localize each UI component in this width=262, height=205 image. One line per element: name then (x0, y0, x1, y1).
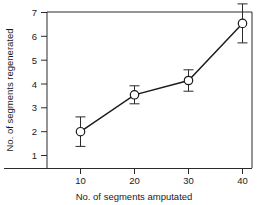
chart-page: 7 6 5 4 3 2 1 10 20 30 40 (0, 0, 262, 205)
data-point-2 (130, 91, 138, 99)
x-tick-label-10: 10 (75, 175, 86, 186)
y-axis-title: No. of segments regenerated (4, 28, 15, 151)
y-tick-label-4: 4 (32, 79, 37, 90)
y-tick-label-3: 3 (32, 102, 37, 113)
plot-frame (47, 12, 252, 168)
x-tick-label-20: 20 (129, 175, 140, 186)
y-tick-label-5: 5 (32, 55, 37, 66)
data-point-1 (76, 128, 84, 136)
error-bars (76, 4, 248, 147)
y-tick-label-1: 1 (32, 150, 37, 161)
scatter-line-chart: 7 6 5 4 3 2 1 10 20 30 40 (0, 0, 262, 205)
x-tick-label-40: 40 (237, 175, 248, 186)
y-tick-label-7: 7 (32, 7, 37, 18)
data-point-3 (184, 76, 192, 84)
x-axis-title: No. of segments amputated (76, 191, 193, 202)
y-axis-ticks (41, 13, 47, 156)
data-point-markers (76, 19, 246, 136)
x-tick-label-30: 30 (183, 175, 194, 186)
y-tick-label-6: 6 (32, 31, 37, 42)
data-series-line (81, 23, 243, 131)
data-point-4 (238, 19, 246, 27)
y-tick-label-2: 2 (32, 126, 37, 137)
